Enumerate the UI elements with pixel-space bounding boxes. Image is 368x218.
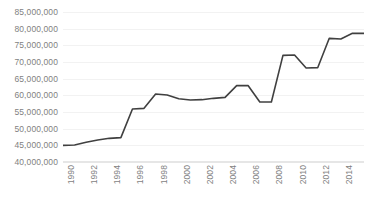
y-tick-label: 40,000,000 bbox=[14, 158, 58, 167]
x-tick-label: 1990 bbox=[67, 165, 76, 184]
y-tick-label: 85,000,000 bbox=[14, 8, 58, 17]
y-tick-label: 60,000,000 bbox=[14, 91, 58, 100]
y-tick-label: 75,000,000 bbox=[14, 41, 58, 50]
y-axis: 40,000,00045,000,00050,000,00055,000,000… bbox=[0, 0, 62, 218]
y-tick-label: 50,000,000 bbox=[14, 124, 58, 133]
x-tick-label: 2006 bbox=[252, 165, 261, 184]
x-axis-baseline bbox=[63, 161, 364, 162]
y-tick-label: 70,000,000 bbox=[14, 58, 58, 67]
x-tick-label: 1996 bbox=[136, 165, 145, 184]
y-tick-label: 65,000,000 bbox=[14, 74, 58, 83]
y-tick-label: 80,000,000 bbox=[14, 24, 58, 33]
x-tick-label: 2012 bbox=[322, 165, 331, 184]
x-tick-label: 2008 bbox=[275, 165, 284, 184]
x-tick-label: 1994 bbox=[113, 165, 122, 184]
plot-area bbox=[63, 12, 364, 162]
x-tick-label: 2004 bbox=[229, 165, 238, 184]
series-polyline bbox=[63, 33, 364, 145]
x-tick-label: 2002 bbox=[206, 165, 215, 184]
x-tick-label: 2000 bbox=[183, 165, 192, 184]
y-tick-label: 55,000,000 bbox=[14, 108, 58, 117]
x-tick-label: 1992 bbox=[90, 165, 99, 184]
x-axis: 1990199219941996199820002002200420062008… bbox=[63, 163, 364, 218]
x-tick-label: 2014 bbox=[345, 165, 354, 184]
series-line bbox=[63, 12, 364, 162]
x-tick-label: 2010 bbox=[299, 165, 308, 184]
line-chart: 40,000,00045,000,00050,000,00055,000,000… bbox=[0, 0, 368, 218]
x-tick-label: 1998 bbox=[160, 165, 169, 184]
y-tick-label: 45,000,000 bbox=[14, 141, 58, 150]
